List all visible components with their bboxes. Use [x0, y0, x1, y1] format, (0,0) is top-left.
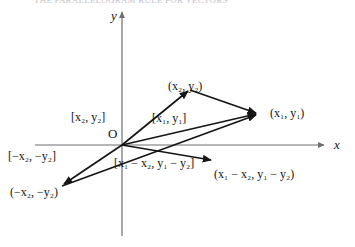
vector-label-x1y1: [x₁, y₁]	[152, 112, 186, 125]
vector-label-difference: [x₁ − x₂, y₁ − y₂]	[114, 157, 194, 170]
vector-label-neg-x2y2: [−x₂, −y₂]	[8, 150, 56, 163]
vector-parallelogram-figure: THE PARALLELOGRAM RULE FOR VECTORS	[0, 0, 355, 247]
point-label-neg-x2y2: (−x₂, −y₂)	[10, 186, 58, 199]
y-axis-label: y	[111, 8, 117, 24]
point-label-difference: (x₁ − x₂, y₁ − y₂)	[214, 168, 294, 181]
vector-x2y2-to-x1y1	[190, 90, 256, 113]
vector-label-x2y2: [x₂, y₂]	[71, 111, 105, 124]
origin-label: O	[108, 126, 117, 142]
point-label-x1y1: (x₁, y₁)	[270, 107, 304, 120]
x-axis-label: x	[334, 137, 340, 153]
point-label-x2y2: (x₂, y₂)	[168, 80, 202, 93]
